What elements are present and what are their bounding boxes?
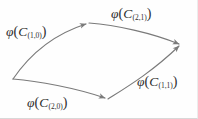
close-paren: ): [147, 6, 152, 21]
phi-symbol: φ: [111, 6, 119, 21]
subscript: (2,1): [132, 13, 146, 22]
phi-symbol: φ: [137, 74, 145, 89]
figure-canvas: φ(C(1,0)) φ(C(2,1)) φ(C(2,0)) φ(C(1,1)): [0, 0, 198, 119]
close-paren: ): [63, 95, 68, 110]
phi-symbol: φ: [27, 95, 35, 110]
upper-right-arrow: [89, 23, 179, 44]
label-phi-c-2-0: φ(C(2,0)): [27, 96, 68, 111]
lower-right-arrow: [108, 46, 179, 99]
phi-symbol: φ: [6, 24, 14, 39]
subscript: (1,0): [27, 31, 41, 40]
label-phi-c-1-1: φ(C(1,1)): [137, 75, 178, 90]
label-phi-c-1-0: φ(C(1,0)): [6, 25, 47, 40]
close-paren: ): [42, 24, 47, 39]
subscript: (2,0): [48, 102, 62, 111]
subscript: (1,1): [158, 81, 172, 90]
close-paren: ): [173, 74, 178, 89]
label-phi-c-2-1: φ(C(2,1)): [111, 7, 152, 22]
